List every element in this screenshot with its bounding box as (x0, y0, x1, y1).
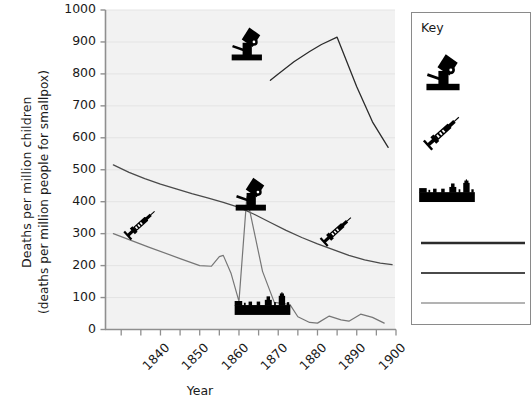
legend-microscope-icon (420, 47, 466, 93)
legend-title: Key (421, 20, 444, 35)
legend-line-sample-3 (421, 301, 525, 305)
legend-key-box: Key (411, 12, 531, 325)
legend-parliament-icon (418, 179, 476, 203)
legend-line-sample-1 (421, 241, 525, 245)
legend-syringe-icon (420, 109, 466, 155)
legend-line-sample-2 (421, 271, 525, 275)
